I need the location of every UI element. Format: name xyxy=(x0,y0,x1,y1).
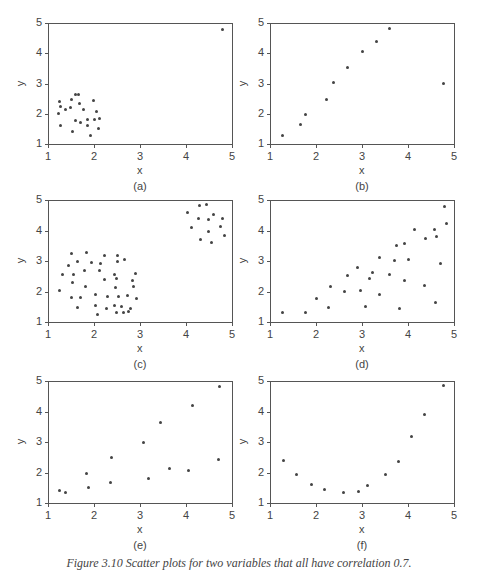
y-tick-label: 1 xyxy=(250,316,264,327)
y-tick xyxy=(267,412,270,413)
data-point xyxy=(61,273,64,276)
data-point xyxy=(423,413,426,416)
y-tick-label: 5 xyxy=(250,375,264,386)
data-point xyxy=(115,277,118,280)
data-point xyxy=(371,271,374,274)
data-point xyxy=(346,66,349,69)
data-point xyxy=(199,238,202,241)
y-tick xyxy=(45,114,48,115)
data-point xyxy=(106,295,109,298)
x-tick xyxy=(270,145,271,148)
x-axis-title: x xyxy=(359,524,365,535)
x-tick xyxy=(408,504,409,507)
y-axis-title: y xyxy=(237,258,248,264)
y-tick-label: 3 xyxy=(28,436,42,447)
y-tick xyxy=(45,473,48,474)
figure-caption: Figure 3.10 Scatter plots for two variab… xyxy=(0,556,478,571)
data-point xyxy=(89,134,92,137)
data-point xyxy=(131,279,134,282)
y-tick-label: 2 xyxy=(250,286,264,297)
data-point xyxy=(99,262,102,265)
x-tick-label: 4 xyxy=(401,151,415,162)
data-point xyxy=(79,296,82,299)
x-tick xyxy=(186,323,187,326)
y-tick-label: 2 xyxy=(28,108,42,119)
y-tick xyxy=(45,200,48,201)
data-point xyxy=(332,81,335,84)
x-tick xyxy=(316,145,317,148)
x-tick-label: 5 xyxy=(447,510,461,521)
x-tick xyxy=(48,323,49,326)
y-tick xyxy=(267,84,270,85)
y-tick-label: 4 xyxy=(250,406,264,417)
x-tick-label: 1 xyxy=(41,151,55,162)
data-point xyxy=(105,307,108,310)
x-tick-label: 5 xyxy=(225,329,239,340)
x-tick xyxy=(270,323,271,326)
x-tick xyxy=(140,323,141,326)
data-point xyxy=(299,123,302,126)
x-tick-label: 1 xyxy=(263,510,277,521)
y-tick-label: 1 xyxy=(250,138,264,149)
y-tick-label: 2 xyxy=(250,108,264,119)
x-tick xyxy=(316,323,317,326)
x-tick-label: 2 xyxy=(309,510,323,521)
x-tick-label: 4 xyxy=(401,510,415,521)
y-tick-label: 5 xyxy=(28,375,42,386)
data-point xyxy=(159,421,162,424)
y-tick-label: 3 xyxy=(250,436,264,447)
data-point xyxy=(207,230,210,233)
y-tick xyxy=(45,412,48,413)
data-point xyxy=(443,205,446,208)
y-axis-title: y xyxy=(15,439,26,445)
y-tick xyxy=(267,292,270,293)
data-point xyxy=(445,222,448,225)
y-tick-label: 5 xyxy=(250,17,264,28)
panel-label: (f) xyxy=(347,539,377,551)
y-tick xyxy=(45,53,48,54)
x-tick xyxy=(454,323,455,326)
x-tick xyxy=(48,145,49,148)
plot-area xyxy=(270,23,455,145)
y-tick-label: 3 xyxy=(28,255,42,266)
x-axis-title: x xyxy=(137,165,143,176)
x-axis-title: x xyxy=(137,343,143,354)
y-tick xyxy=(45,261,48,262)
data-point xyxy=(64,108,67,111)
y-tick xyxy=(267,231,270,232)
y-tick xyxy=(267,53,270,54)
panel-label: (e) xyxy=(125,539,155,551)
data-point xyxy=(95,110,98,113)
x-tick-label: 5 xyxy=(225,151,239,162)
y-tick-label: 2 xyxy=(28,467,42,478)
data-point xyxy=(423,284,426,287)
y-tick-label: 1 xyxy=(28,138,42,149)
x-tick xyxy=(362,504,363,507)
y-tick-label: 4 xyxy=(250,47,264,58)
x-tick xyxy=(186,504,187,507)
data-point xyxy=(96,313,99,316)
x-tick xyxy=(186,145,187,148)
x-tick-label: 3 xyxy=(133,329,147,340)
plot-area xyxy=(270,381,455,504)
x-tick xyxy=(408,323,409,326)
y-tick-label: 2 xyxy=(28,286,42,297)
data-point xyxy=(85,472,88,475)
x-tick-label: 3 xyxy=(355,151,369,162)
data-point xyxy=(69,106,72,109)
x-tick xyxy=(408,145,409,148)
y-tick xyxy=(267,442,270,443)
x-tick xyxy=(454,504,455,507)
data-point xyxy=(342,491,345,494)
data-point xyxy=(67,264,70,267)
data-point xyxy=(217,458,220,461)
data-point xyxy=(207,218,210,221)
data-point xyxy=(86,124,89,127)
y-axis-title: y xyxy=(237,439,248,445)
data-point xyxy=(70,296,73,299)
x-axis-title: x xyxy=(359,165,365,176)
y-axis-title: y xyxy=(15,258,26,264)
data-point xyxy=(113,273,116,276)
data-point xyxy=(197,217,200,220)
data-point xyxy=(295,473,298,476)
